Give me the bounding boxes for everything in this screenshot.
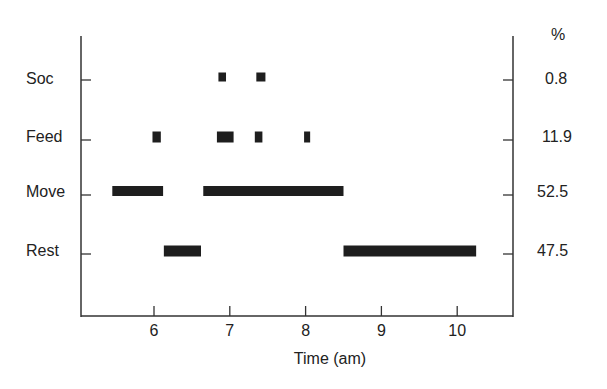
activity-bars — [112, 73, 476, 257]
y-axis-ticks — [81, 80, 513, 254]
percent-move: 52.5 — [537, 183, 568, 200]
activity-bar-rest — [164, 246, 201, 257]
activity-bar-move — [112, 186, 163, 196]
percent-soc: 0.8 — [545, 70, 567, 87]
x-axis-ticks: 678910 — [150, 306, 467, 339]
activity-bar-move — [203, 186, 343, 196]
x-tick-label: 6 — [150, 322, 159, 339]
row-label-move: Move — [26, 183, 65, 200]
x-tick-label: 7 — [225, 322, 234, 339]
activity-bar-feed — [304, 132, 310, 143]
row-label-feed: Feed — [26, 128, 62, 145]
percent-rest: 47.5 — [537, 242, 568, 259]
percent-header: % — [551, 26, 565, 43]
activity-bar-feed — [217, 132, 234, 143]
activity-bar-soc — [256, 73, 265, 82]
x-tick-label: 10 — [448, 322, 466, 339]
activity-bar-soc — [218, 73, 226, 82]
activity-timeline-chart: 678910 Soc Feed Move Rest % 0.8 11.9 52.… — [0, 0, 607, 389]
row-label-rest: Rest — [26, 242, 59, 259]
x-axis-title: Time (am) — [294, 350, 366, 367]
x-tick-label: 9 — [377, 322, 386, 339]
x-tick-label: 8 — [301, 322, 310, 339]
activity-bar-feed — [255, 132, 263, 143]
row-label-soc: Soc — [26, 70, 54, 87]
activity-bar-feed — [152, 132, 160, 143]
activity-bar-rest — [344, 246, 477, 257]
percent-feed: 11.9 — [542, 128, 572, 145]
